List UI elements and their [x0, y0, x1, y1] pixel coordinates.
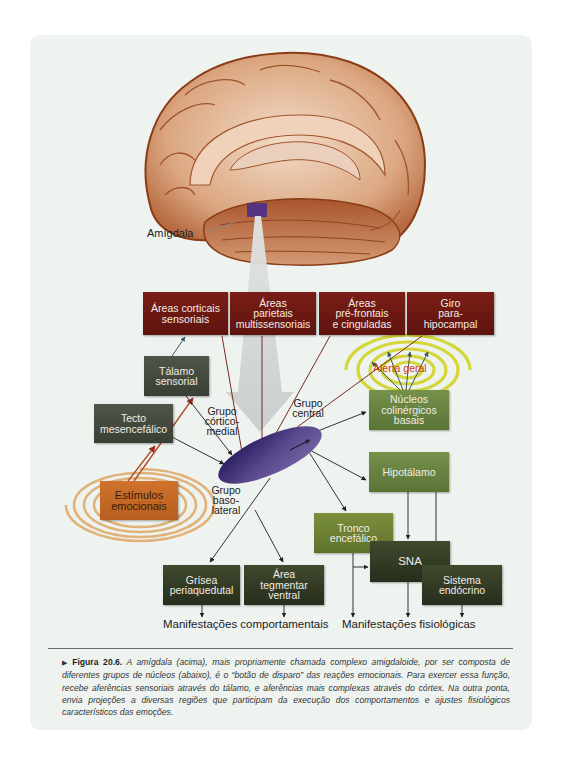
box-areas-corticais-sensoriais: Áreas corticais sensoriais — [143, 292, 228, 335]
box-tecto-mesencefalico: Tecto mesencefálico — [94, 404, 173, 443]
box-giro-parahipocampal: Giro para- hipocampal — [407, 292, 494, 335]
box-nucleos-colinergicos-basais: Núcleos colinérgicos basais — [369, 390, 449, 430]
amygdala-patch — [247, 203, 267, 217]
label-grupo-cortico-medial: Grupo córtico- medial — [202, 406, 242, 436]
label-manifestacoes-fisiologicas: Manifestações fisiológicas — [342, 618, 476, 630]
label-manifestacoes-comportamentais: Manifestações comportamentais — [163, 618, 329, 630]
label-alerta-geral: Alerta geral — [373, 362, 427, 374]
brain-cerebellum — [204, 199, 400, 265]
figure-label: Figura 20.6. — [72, 657, 122, 667]
box-area-tegmentar-ventral: Área tegmentar ventral — [244, 565, 324, 605]
diagram-canvas — [0, 0, 562, 761]
figure-caption: ▶Figura 20.6. A amígdala (acima), mais p… — [62, 656, 510, 718]
caption-text: A amígdala (acima), mais propriamente ch… — [62, 657, 510, 717]
box-areas-parietais: Áreas parietais multissensoriais — [230, 292, 316, 335]
box-areas-prefrontais: Áreas pré-frontais e cinguladas — [319, 292, 405, 335]
box-talamo-sensorial: Tálamo sensorial — [144, 356, 209, 396]
caption-divider — [48, 648, 513, 649]
box-sistema-endocrino: Sistema endócrino — [422, 565, 502, 605]
box-hipotalamo: Hipotálamo — [369, 452, 449, 492]
caption-marker-icon: ▶ — [62, 659, 69, 666]
box-grisea-periaquedutal: Grísea periaquedutal — [163, 565, 240, 605]
label-grupo-central: Grupo central — [290, 398, 326, 418]
amygdala-label: Amígdala — [147, 227, 193, 239]
label-grupo-baso-lateral: Grupo baso- lateral — [208, 485, 244, 515]
box-estimulos-emocionais: Estímulos emocionais — [100, 481, 178, 520]
